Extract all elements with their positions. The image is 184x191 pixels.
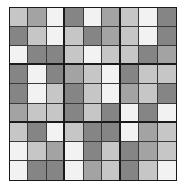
grid-cell[interactable] — [10, 161, 28, 180]
grid-cell[interactable] — [102, 8, 120, 27]
grid-cell[interactable] — [28, 46, 46, 65]
grid-cell[interactable] — [65, 65, 83, 84]
grid-cell[interactable] — [84, 65, 102, 84]
grid-cell[interactable] — [47, 161, 65, 180]
grid-cell[interactable] — [28, 161, 46, 180]
grid-cell[interactable] — [84, 142, 102, 161]
grid-cell[interactable] — [10, 8, 28, 27]
grid-cell[interactable] — [102, 65, 120, 84]
grid-cell[interactable] — [139, 123, 157, 142]
grid-cell[interactable] — [65, 104, 83, 123]
grid-cell[interactable] — [84, 8, 102, 27]
grid-cell[interactable] — [139, 8, 157, 27]
grid-cell[interactable] — [102, 161, 120, 180]
grid-cell[interactable] — [139, 142, 157, 161]
grid-cell[interactable] — [65, 142, 83, 161]
grid-cell[interactable] — [102, 27, 120, 46]
grid-cell[interactable] — [84, 46, 102, 65]
grid-cell[interactable] — [28, 104, 46, 123]
grid-cell[interactable] — [139, 46, 157, 65]
grid-cell[interactable] — [121, 84, 139, 103]
grid-cell[interactable] — [47, 8, 65, 27]
grid-cell[interactable] — [102, 123, 120, 142]
grid-cell[interactable] — [84, 104, 102, 123]
shaded-grid-9x9 — [9, 7, 177, 181]
grid-cell[interactable] — [47, 84, 65, 103]
grid-cell[interactable] — [139, 104, 157, 123]
grid-cell[interactable] — [47, 46, 65, 65]
grid-cell[interactable] — [47, 65, 65, 84]
grid-cell[interactable] — [158, 104, 176, 123]
grid-cell[interactable] — [10, 123, 28, 142]
grid-cell[interactable] — [139, 84, 157, 103]
grid-cell[interactable] — [84, 123, 102, 142]
grid-cell[interactable] — [102, 142, 120, 161]
grid-cell[interactable] — [65, 8, 83, 27]
grid-cell[interactable] — [158, 65, 176, 84]
grid-cell[interactable] — [10, 27, 28, 46]
grid-cell[interactable] — [47, 142, 65, 161]
grid-cell[interactable] — [65, 27, 83, 46]
grid-cell[interactable] — [10, 84, 28, 103]
grid-cell[interactable] — [65, 123, 83, 142]
grid-cell[interactable] — [28, 27, 46, 46]
grid-cell[interactable] — [28, 123, 46, 142]
grid-cell[interactable] — [139, 161, 157, 180]
grid-cell[interactable] — [10, 104, 28, 123]
grid-cell[interactable] — [28, 65, 46, 84]
grid-cell[interactable] — [102, 46, 120, 65]
grid-cell[interactable] — [121, 27, 139, 46]
grid-cell[interactable] — [102, 104, 120, 123]
grid-cell[interactable] — [65, 84, 83, 103]
grid-cell[interactable] — [10, 46, 28, 65]
grid-cell[interactable] — [158, 123, 176, 142]
grid-cell[interactable] — [84, 84, 102, 103]
grid-cell[interactable] — [10, 142, 28, 161]
grid-cell[interactable] — [121, 8, 139, 27]
grid-cell[interactable] — [65, 46, 83, 65]
grid-cell[interactable] — [121, 104, 139, 123]
grid-cell[interactable] — [28, 8, 46, 27]
grid-cell[interactable] — [121, 123, 139, 142]
grid-cell[interactable] — [121, 65, 139, 84]
grid-cell[interactable] — [158, 161, 176, 180]
grid-cell[interactable] — [84, 161, 102, 180]
grid-cell[interactable] — [47, 123, 65, 142]
grid-cell[interactable] — [28, 84, 46, 103]
grid-cell[interactable] — [139, 27, 157, 46]
grid-cell[interactable] — [121, 142, 139, 161]
grid-cell[interactable] — [28, 142, 46, 161]
grid-cell[interactable] — [47, 104, 65, 123]
grid-cell[interactable] — [10, 65, 28, 84]
grid-cell[interactable] — [84, 27, 102, 46]
grid-cell[interactable] — [158, 46, 176, 65]
grid-cell[interactable] — [121, 161, 139, 180]
grid-cell[interactable] — [158, 84, 176, 103]
grid-cell[interactable] — [121, 46, 139, 65]
grid-cell[interactable] — [139, 65, 157, 84]
grid-cell[interactable] — [47, 27, 65, 46]
grid-cell[interactable] — [102, 84, 120, 103]
grid-cell[interactable] — [158, 142, 176, 161]
grid-cell[interactable] — [158, 8, 176, 27]
grid-cell[interactable] — [65, 161, 83, 180]
grid-cell[interactable] — [158, 27, 176, 46]
